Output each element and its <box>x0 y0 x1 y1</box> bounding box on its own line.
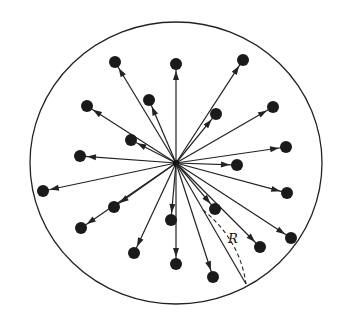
velocity-arrow <box>85 156 176 163</box>
arrowhead-icon <box>173 71 179 80</box>
particle-dot <box>285 232 297 244</box>
particle-dot <box>128 247 140 259</box>
particle-dot <box>108 201 120 213</box>
particle-dot <box>125 134 137 146</box>
particle-dot <box>165 214 177 226</box>
particle-dot <box>75 222 87 234</box>
arrowhead-icon <box>169 204 175 213</box>
velocity-arrow <box>176 163 282 192</box>
arrowhead-icon <box>221 161 230 167</box>
particle-dot <box>280 141 292 153</box>
arrowhead-icon <box>205 261 211 270</box>
arrowhead-icon <box>137 237 144 246</box>
particle-dot <box>143 94 155 106</box>
arrowhead-icon <box>119 68 126 77</box>
particle-dot <box>237 54 249 66</box>
particle-dot <box>170 258 182 270</box>
particle-dot <box>109 56 121 68</box>
particle-dot <box>210 108 222 120</box>
arrowhead-icon <box>232 66 239 75</box>
arrowhead-icon <box>270 146 279 152</box>
arrowhead-icon <box>93 110 102 117</box>
velocity-arrow <box>176 109 269 163</box>
arrowhead-icon <box>137 143 146 150</box>
particle-dot <box>254 241 266 253</box>
arrowhead-icon <box>152 106 158 115</box>
velocity-arrows <box>48 64 287 272</box>
arrowhead-icon <box>276 227 285 234</box>
particle-dot <box>74 150 86 162</box>
particle-dot <box>81 100 93 112</box>
arrowhead-icon <box>173 248 179 257</box>
velocity-arrow <box>176 148 281 163</box>
arrowhead-icon <box>258 110 267 117</box>
radius-line <box>176 163 246 284</box>
particle-dot <box>267 101 279 113</box>
particle-dot <box>37 185 49 197</box>
arrowhead-icon <box>87 216 96 224</box>
velocity-arrow <box>176 64 240 163</box>
velocity-arrow <box>176 163 211 272</box>
velocity-arrow <box>176 163 287 235</box>
radius-label: R <box>227 231 238 246</box>
particle-dot <box>209 203 221 215</box>
particle-dot <box>170 58 182 70</box>
particle-dot <box>207 271 219 283</box>
particle-dot <box>281 187 293 199</box>
particle-dot <box>231 159 243 171</box>
expansion-diagram: R <box>0 0 345 321</box>
arrowhead-icon <box>271 186 280 192</box>
